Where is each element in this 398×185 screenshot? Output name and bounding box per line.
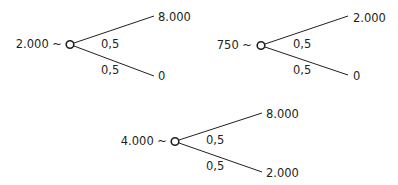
certainty-equivalent-label: 4.000 ~ <box>121 134 167 148</box>
lottery-diagram: 2.000 ~ 8.000 0 0,5 0,5 750 ~ 2.000 0 0,… <box>0 0 398 185</box>
lower-probability-label: 0,5 <box>101 63 119 77</box>
upper-probability-label: 0,5 <box>206 133 224 147</box>
upper-probability-label: 0,5 <box>101 37 119 51</box>
lottery-tree-2: 750 ~ 2.000 0 0,5 0,5 <box>217 11 386 83</box>
chance-node-icon <box>171 138 179 146</box>
upper-outcome-label: 2.000 <box>353 11 386 25</box>
lower-outcome-label: 2.000 <box>266 166 299 180</box>
lower-probability-label: 0,5 <box>206 159 224 173</box>
chance-node-icon <box>66 41 74 49</box>
certainty-equivalent-label: 2.000 ~ <box>16 37 62 51</box>
lower-outcome-label: 0 <box>353 69 360 83</box>
lottery-tree-3: 4.000 ~ 8.000 2.000 0,5 0,5 <box>121 107 299 180</box>
lottery-tree-1: 2.000 ~ 8.000 0 0,5 0,5 <box>16 10 191 83</box>
upper-outcome-label: 8.000 <box>266 107 299 121</box>
upper-outcome-label: 8.000 <box>158 10 191 24</box>
chance-node-icon <box>257 42 265 50</box>
lower-probability-label: 0,5 <box>293 63 311 77</box>
certainty-equivalent-label: 750 ~ <box>217 38 252 52</box>
lower-outcome-label: 0 <box>158 69 165 83</box>
upper-probability-label: 0,5 <box>293 37 311 51</box>
